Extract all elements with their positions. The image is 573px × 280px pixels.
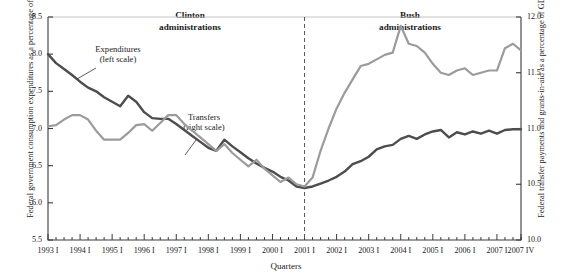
y-tick-right: 11.0 (527, 124, 557, 133)
y-tick-right: 10.5 (527, 179, 557, 188)
y-tick-right: 10.0 (527, 235, 557, 244)
x-tick: 2007 IV (499, 246, 543, 255)
y-tick-left: 8.0 (16, 49, 42, 58)
y-tick-left: 6.5 (16, 161, 42, 170)
y-tick-right: 12.0 (527, 12, 557, 21)
y-tick-left: 6.0 (16, 198, 42, 207)
y-tick-left: 7.0 (16, 124, 42, 133)
y-tick-left: 7.5 (16, 86, 42, 95)
y-tick-right: 11.5 (527, 68, 557, 77)
plot-area (0, 0, 573, 280)
y-tick-left: 5.5 (16, 235, 42, 244)
chart-figure: Federal government consumption expenditu… (0, 0, 573, 280)
leader-line-transfers (185, 140, 196, 155)
leader-line-expenditures (77, 68, 96, 79)
y-tick-left: 8.5 (16, 12, 42, 21)
